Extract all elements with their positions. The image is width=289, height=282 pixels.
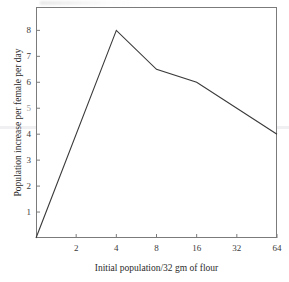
- figure-container: 12345678 248163264 Initial population/32…: [0, 0, 289, 282]
- x-tick-label: 4: [105, 244, 127, 253]
- scan-artifact-top: [40, 1, 160, 5]
- x-tick-label: 32: [226, 244, 248, 253]
- x-tick-label: 2: [65, 244, 87, 253]
- x-tick-label: 8: [146, 244, 168, 253]
- plot-frame: [36, 7, 277, 238]
- x-axis-title: Initial population/32 gm of flour: [36, 263, 277, 274]
- y-axis-title: Population increase per female per day: [13, 13, 24, 233]
- x-tick-label: 16: [186, 244, 208, 253]
- x-tick-label: 64: [266, 244, 288, 253]
